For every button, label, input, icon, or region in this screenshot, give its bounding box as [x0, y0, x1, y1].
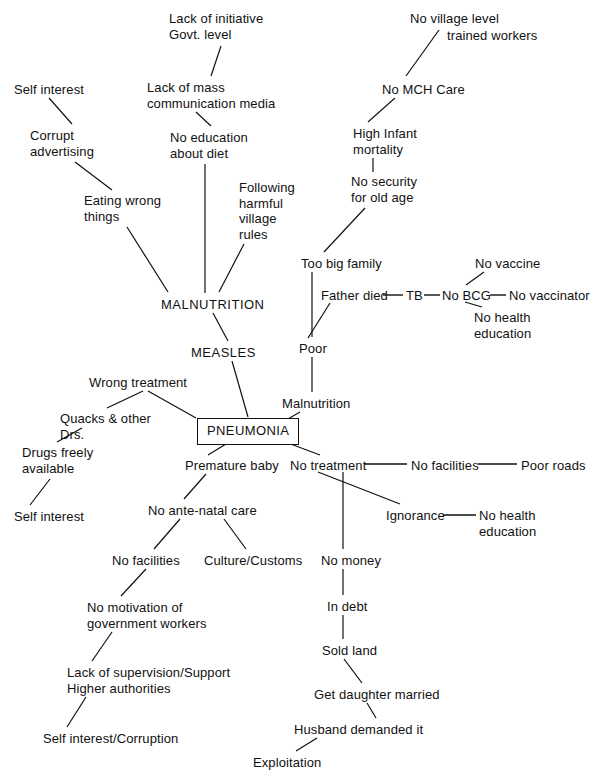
node-corrupt-advertising[interactable]: Corrupt advertising: [30, 128, 94, 159]
node-exploitation[interactable]: Exploitation: [253, 755, 321, 771]
node-sold-land[interactable]: Sold land: [322, 643, 377, 659]
node-ignorance[interactable]: Ignorance: [386, 508, 445, 524]
node-self-interest-drugs[interactable]: Self interest: [14, 509, 84, 525]
node-no-ante-natal[interactable]: No ante-natal care: [148, 503, 257, 519]
node-layer: Lack of initiative Govt. levelNo village…: [0, 0, 602, 783]
node-lack-initiative[interactable]: Lack of initiative Govt. level: [169, 11, 263, 42]
node-no-education-diet[interactable]: No education about diet: [170, 130, 248, 161]
node-measles[interactable]: MEASLES: [191, 345, 256, 361]
node-self-interest-top[interactable]: Self interest: [14, 82, 84, 98]
node-in-debt[interactable]: In debt: [327, 599, 367, 615]
node-lack-supervision[interactable]: Lack of supervision/Support Higher autho…: [67, 665, 230, 696]
node-no-facilities-ante[interactable]: No facilities: [112, 553, 180, 569]
node-following-harmful[interactable]: Following harmful village rules: [239, 180, 295, 242]
node-quacks-other-drs[interactable]: Quacks & other Drs.: [60, 411, 151, 442]
node-eating-wrong[interactable]: Eating wrong things: [84, 193, 161, 224]
node-no-treatment[interactable]: No treatment: [290, 458, 366, 474]
node-no-motivation[interactable]: No motivation of government workers: [87, 600, 207, 631]
node-no-money[interactable]: No money: [321, 553, 381, 569]
node-no-bcg[interactable]: No BCG: [442, 288, 491, 304]
node-no-vaccinator[interactable]: No vaccinator: [509, 288, 590, 304]
node-tb[interactable]: TB: [406, 288, 423, 304]
node-malnutrition-main[interactable]: MALNUTRITION: [161, 297, 265, 313]
node-no-security-old-age[interactable]: No security for old age: [351, 174, 417, 205]
node-father-died[interactable]: Father died: [321, 288, 388, 304]
node-too-big-family[interactable]: Too big family: [301, 256, 382, 272]
node-trained-workers[interactable]: trained workers: [447, 28, 537, 44]
node-drugs-freely[interactable]: Drugs freely available: [22, 445, 93, 476]
node-no-vaccine[interactable]: No vaccine: [475, 256, 540, 272]
node-no-mch-care[interactable]: No MCH Care: [382, 82, 465, 98]
node-culture-customs[interactable]: Culture/Customs: [204, 553, 302, 569]
diagram-canvas: Lack of initiative Govt. levelNo village…: [0, 0, 602, 783]
node-self-interest-corrupt[interactable]: Self interest/Corruption: [43, 731, 178, 747]
node-poor[interactable]: Poor: [299, 341, 327, 357]
node-high-infant-mort[interactable]: High Infant mortality: [353, 126, 417, 157]
node-get-daughter-married[interactable]: Get daughter married: [314, 687, 440, 703]
node-premature-baby[interactable]: Premature baby: [185, 458, 279, 474]
node-no-health-education-2[interactable]: No health education: [479, 508, 536, 539]
node-wrong-treatment[interactable]: Wrong treatment: [89, 375, 187, 391]
node-no-village-level[interactable]: No village level: [410, 11, 499, 27]
node-lack-mass-comm[interactable]: Lack of mass communication media: [147, 80, 275, 111]
node-pneumonia[interactable]: PNEUMONIA: [197, 418, 299, 445]
node-no-facilities-roads[interactable]: No facilities: [411, 458, 479, 474]
node-poor-roads[interactable]: Poor roads: [521, 458, 586, 474]
node-husband-demanded[interactable]: Husband demanded it: [294, 722, 423, 738]
node-no-health-education-1[interactable]: No health education: [474, 310, 531, 341]
node-malnutrition-sub[interactable]: Malnutrition: [282, 396, 350, 412]
